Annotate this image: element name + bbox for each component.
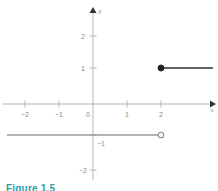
- lower-branch-open-endpoint-marker: [158, 132, 164, 138]
- y-tick-label-neg2: −2: [79, 167, 87, 174]
- y-axis-group: y: [90, 7, 103, 180]
- upper-branch-closed-endpoint-marker: [158, 65, 164, 71]
- y-tick-label-neg1: −1: [97, 140, 105, 147]
- coordinate-plane-chart: x y −2 −1 0 1 2 2 1 −1: [0, 0, 218, 191]
- figure-container: x y −2 −1 0 1 2 2 1 −1: [0, 0, 218, 191]
- y-axis-label: y: [98, 8, 103, 14]
- figure-caption: Figure 1.5: [6, 183, 55, 191]
- y-axis-ticks: 2 1 −1 −2: [79, 33, 105, 174]
- y-tick-label-2: 2: [81, 33, 85, 40]
- x-axis-label: x: [210, 107, 215, 113]
- x-tick-label-2: 2: [159, 111, 163, 118]
- y-tick-label-1: 1: [81, 65, 85, 72]
- lower-branch-series: [7, 132, 164, 138]
- x-axis-ticks: −2 −1 0 1 2: [21, 101, 163, 119]
- x-tick-label-neg2: −2: [21, 111, 29, 118]
- x-tick-label-neg1: −1: [55, 111, 63, 118]
- x-tick-label-zero: 0: [86, 111, 90, 118]
- y-axis-arrowhead: [90, 7, 97, 13]
- x-axis-group: x: [3, 101, 216, 114]
- upper-branch-series: [158, 65, 213, 71]
- x-tick-label-1: 1: [125, 111, 129, 118]
